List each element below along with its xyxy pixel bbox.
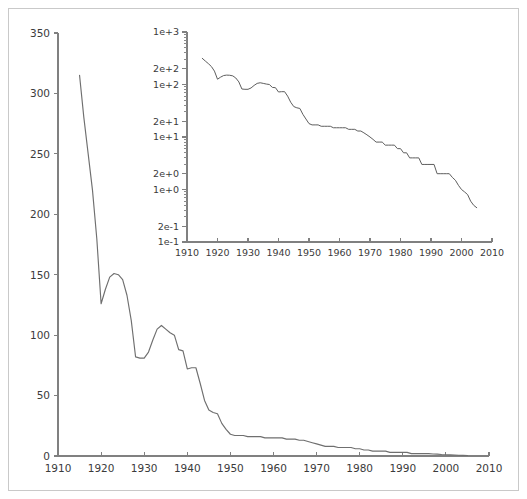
inset-x-tick-label: 1940 xyxy=(266,247,290,258)
main-y-tick-label: 300 xyxy=(30,87,50,99)
inset-axes xyxy=(182,32,492,242)
main-axis-spines xyxy=(58,33,489,456)
inset-y-tick-label: 1e+2 xyxy=(153,79,179,90)
inset-y-tick-labels: 1e-12e-11e+02e+01e+12e+11e+22e+21e+3 xyxy=(153,26,179,247)
main-x-tick-label: 2000 xyxy=(433,462,460,474)
main-x-tick-label: 1970 xyxy=(303,462,330,474)
main-x-tick-label: 1920 xyxy=(88,462,115,474)
main-data-line xyxy=(80,75,468,455)
inset-y-tick-label: 1e+0 xyxy=(153,184,179,195)
inset-y-tick-label: 2e+1 xyxy=(153,116,179,127)
inset-data-line xyxy=(202,58,477,207)
inset-x-tick-label: 1960 xyxy=(327,247,351,258)
inset-x-tick-label: 1920 xyxy=(205,247,229,258)
inset-axis-spines xyxy=(187,32,492,242)
main-y-tick-label: 150 xyxy=(30,269,50,281)
inset-x-tick-label: 2000 xyxy=(449,247,473,258)
main-y-tick-label: 100 xyxy=(30,329,50,341)
main-y-tick-labels: 050100150200250300350 xyxy=(30,27,50,462)
main-x-tick-label: 1980 xyxy=(346,462,373,474)
inset-y-tick-label: 1e+1 xyxy=(153,131,179,142)
main-x-tick-label: 1950 xyxy=(217,462,244,474)
main-series-line xyxy=(80,75,468,455)
inset-y-tick-label: 2e+2 xyxy=(153,63,179,74)
inset-x-tick-label: 1970 xyxy=(358,247,382,258)
inset-series-line xyxy=(202,58,477,207)
main-x-tick-label: 1940 xyxy=(174,462,201,474)
main-y-tick-label: 0 xyxy=(43,450,50,462)
main-x-tick-label: 1910 xyxy=(45,462,72,474)
main-y-tick-label: 250 xyxy=(30,148,50,160)
main-x-tick-label: 1960 xyxy=(260,462,287,474)
inset-x-tick-label: 1980 xyxy=(388,247,412,258)
main-y-tick-label: 350 xyxy=(30,27,50,39)
main-y-tick-label: 200 xyxy=(30,208,50,220)
inset-x-tick-label: 2010 xyxy=(480,247,504,258)
chart-svg: 1910192019301940195019601970198019902000… xyxy=(0,0,527,499)
inset-x-tick-label: 1910 xyxy=(175,247,199,258)
inset-y-tick-label: 2e+0 xyxy=(153,168,179,179)
inset-y-tick-label: 1e+3 xyxy=(153,26,179,37)
main-x-tick-label: 1990 xyxy=(389,462,416,474)
figure-canvas: 1910192019301940195019601970198019902000… xyxy=(0,0,527,499)
inset-x-tick-labels: 1910192019301940195019601970198019902000… xyxy=(175,247,504,258)
main-y-tick-label: 50 xyxy=(37,389,50,401)
inset-x-tick-label: 1950 xyxy=(297,247,321,258)
inset-x-tick-label: 1990 xyxy=(419,247,443,258)
inset-y-tick-label: 1e-1 xyxy=(158,236,179,247)
main-x-tick-label: 2010 xyxy=(476,462,503,474)
main-x-tick-labels: 1910192019301940195019601970198019902000… xyxy=(45,462,503,474)
inset-y-tick-label: 2e-1 xyxy=(158,221,179,232)
main-x-tick-label: 1930 xyxy=(131,462,158,474)
inset-x-tick-label: 1930 xyxy=(236,247,260,258)
main-axes xyxy=(54,33,489,456)
